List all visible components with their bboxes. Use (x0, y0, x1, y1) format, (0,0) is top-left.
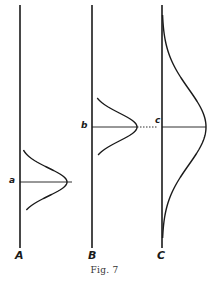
peak-label-a: a (9, 176, 15, 185)
normal-curve-b (97, 98, 137, 155)
panel-b (92, 5, 158, 248)
figure-caption: Fig. 7 (0, 265, 209, 275)
axis-label-a: A (15, 250, 24, 261)
panel-a (20, 5, 72, 248)
axis-label-c: C (157, 250, 165, 261)
normal-curve-a (23, 150, 67, 210)
peak-label-b: b (81, 121, 87, 130)
normal-curve-c (163, 15, 206, 238)
axis-label-b: B (88, 250, 96, 261)
peak-label-c: c (155, 116, 160, 125)
normal-curves-figure (0, 0, 209, 283)
panel-c (162, 5, 206, 248)
